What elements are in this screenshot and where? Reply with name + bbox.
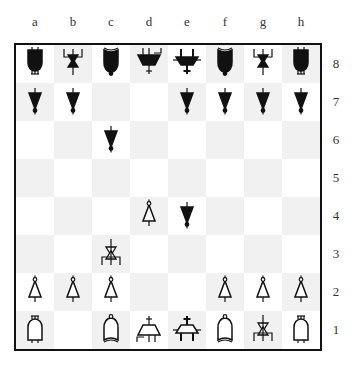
square-d6[interactable] (130, 121, 168, 159)
square-d8[interactable] (130, 45, 168, 83)
square-f1[interactable] (206, 311, 244, 349)
square-e7[interactable] (168, 83, 206, 121)
square-b7[interactable] (54, 83, 92, 121)
square-g5[interactable] (244, 159, 282, 197)
square-d3[interactable] (130, 235, 168, 273)
black-knight-icon[interactable] (58, 47, 88, 81)
black-rook-icon[interactable] (286, 47, 316, 81)
white-bishop-icon[interactable] (96, 313, 126, 347)
square-f7[interactable] (206, 83, 244, 121)
square-g7[interactable] (244, 83, 282, 121)
white-rook-icon[interactable] (286, 313, 316, 347)
square-h8[interactable] (282, 45, 320, 83)
square-f8[interactable] (206, 45, 244, 83)
file-label: c (92, 14, 130, 30)
square-b2[interactable] (54, 273, 92, 311)
black-bishop-icon[interactable] (210, 47, 240, 81)
square-e8[interactable] (168, 45, 206, 83)
black-king-icon[interactable] (172, 47, 202, 81)
square-e3[interactable] (168, 235, 206, 273)
black-pawn-icon[interactable] (172, 199, 202, 233)
square-a4[interactable] (16, 197, 54, 235)
square-f2[interactable] (206, 273, 244, 311)
square-h3[interactable] (282, 235, 320, 273)
square-b1[interactable] (54, 311, 92, 349)
white-knight-icon[interactable] (96, 237, 126, 271)
white-bishop-icon[interactable] (210, 313, 240, 347)
square-f5[interactable] (206, 159, 244, 197)
square-c6[interactable] (92, 121, 130, 159)
square-c2[interactable] (92, 273, 130, 311)
black-bishop-icon[interactable] (96, 47, 126, 81)
white-pawn-icon[interactable] (134, 199, 164, 233)
square-b6[interactable] (54, 121, 92, 159)
white-pawn-icon[interactable] (210, 275, 240, 309)
white-pawn-icon[interactable] (248, 275, 278, 309)
white-pawn-icon[interactable] (20, 275, 50, 309)
rank-label: 7 (326, 83, 346, 121)
square-a8[interactable] (16, 45, 54, 83)
white-knight-icon[interactable] (248, 313, 278, 347)
square-g1[interactable] (244, 311, 282, 349)
square-b5[interactable] (54, 159, 92, 197)
square-d7[interactable] (130, 83, 168, 121)
square-g6[interactable] (244, 121, 282, 159)
square-h4[interactable] (282, 197, 320, 235)
square-e5[interactable] (168, 159, 206, 197)
square-c3[interactable] (92, 235, 130, 273)
square-g2[interactable] (244, 273, 282, 311)
square-c4[interactable] (92, 197, 130, 235)
white-pawn-icon[interactable] (96, 275, 126, 309)
square-h2[interactable] (282, 273, 320, 311)
square-a2[interactable] (16, 273, 54, 311)
rank-labels: 87654321 (326, 45, 346, 349)
white-pawn-icon[interactable] (286, 275, 316, 309)
square-h7[interactable] (282, 83, 320, 121)
square-f6[interactable] (206, 121, 244, 159)
square-e4[interactable] (168, 197, 206, 235)
square-g8[interactable] (244, 45, 282, 83)
square-a1[interactable] (16, 311, 54, 349)
square-e1[interactable] (168, 311, 206, 349)
square-c7[interactable] (92, 83, 130, 121)
black-pawn-icon[interactable] (20, 85, 50, 119)
black-pawn-icon[interactable] (172, 85, 202, 119)
square-d2[interactable] (130, 273, 168, 311)
chess-board[interactable] (14, 43, 322, 351)
square-a6[interactable] (16, 121, 54, 159)
square-c5[interactable] (92, 159, 130, 197)
black-pawn-icon[interactable] (286, 85, 316, 119)
black-rook-icon[interactable] (20, 47, 50, 81)
black-pawn-icon[interactable] (96, 123, 126, 157)
square-a5[interactable] (16, 159, 54, 197)
square-c1[interactable] (92, 311, 130, 349)
square-d4[interactable] (130, 197, 168, 235)
black-knight-icon[interactable] (248, 47, 278, 81)
black-pawn-icon[interactable] (58, 85, 88, 119)
square-g3[interactable] (244, 235, 282, 273)
square-h1[interactable] (282, 311, 320, 349)
square-b4[interactable] (54, 197, 92, 235)
square-g4[interactable] (244, 197, 282, 235)
white-rook-icon[interactable] (20, 313, 50, 347)
square-h6[interactable] (282, 121, 320, 159)
white-king-icon[interactable] (172, 313, 202, 347)
square-d5[interactable] (130, 159, 168, 197)
square-b8[interactable] (54, 45, 92, 83)
square-f3[interactable] (206, 235, 244, 273)
square-a3[interactable] (16, 235, 54, 273)
square-e2[interactable] (168, 273, 206, 311)
square-f4[interactable] (206, 197, 244, 235)
file-labels: abcdefgh (16, 14, 320, 30)
white-queen-icon[interactable] (134, 313, 164, 347)
black-pawn-icon[interactable] (210, 85, 240, 119)
square-b3[interactable] (54, 235, 92, 273)
square-h5[interactable] (282, 159, 320, 197)
black-pawn-icon[interactable] (248, 85, 278, 119)
black-queen-icon[interactable] (134, 47, 164, 81)
square-c8[interactable] (92, 45, 130, 83)
white-pawn-icon[interactable] (58, 275, 88, 309)
square-e6[interactable] (168, 121, 206, 159)
square-d1[interactable] (130, 311, 168, 349)
square-a7[interactable] (16, 83, 54, 121)
